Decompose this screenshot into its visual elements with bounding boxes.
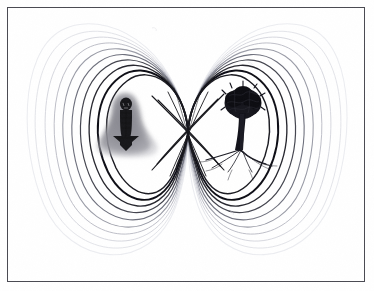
- illustration-canvas: Hand-drawn figure-eight attractor sketch…: [0, 0, 374, 291]
- paper-grain-overlay: [0, 0, 374, 291]
- attractor-sketch-artwork: [0, 0, 374, 291]
